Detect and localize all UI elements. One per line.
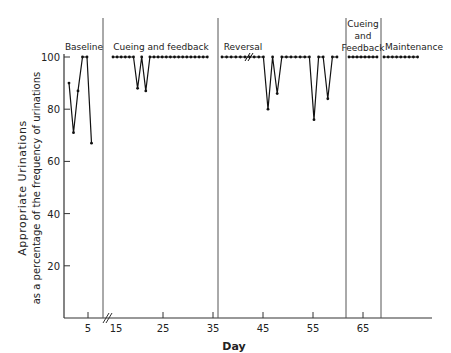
data-point xyxy=(194,56,197,59)
x-tick-label: 65 xyxy=(357,323,370,334)
data-point xyxy=(326,97,329,100)
phase-label: Cueing xyxy=(347,19,378,29)
data-point xyxy=(383,56,386,59)
data-point xyxy=(416,56,419,59)
data-point xyxy=(364,56,367,59)
phase-label: Maintenance xyxy=(385,42,443,52)
data-point xyxy=(81,56,84,59)
data-point xyxy=(128,56,131,59)
y-tick-label: 80 xyxy=(47,104,60,115)
data-point xyxy=(132,56,135,59)
data-point xyxy=(348,56,351,59)
x-tick-label: 25 xyxy=(157,323,170,334)
data-point xyxy=(408,56,411,59)
data-point xyxy=(303,56,306,59)
chart: 204060801005152535455565DayAppropriate U… xyxy=(0,0,451,353)
data-point xyxy=(177,56,180,59)
data-point xyxy=(399,56,402,59)
x-tick-label: 45 xyxy=(257,323,270,334)
data-point xyxy=(173,56,176,59)
data-point xyxy=(225,56,228,59)
data-point xyxy=(299,56,302,59)
data-point xyxy=(90,142,93,145)
data-point xyxy=(368,56,371,59)
data-line xyxy=(222,57,337,120)
y-axis-label: Appropriate Urinations xyxy=(16,120,29,256)
data-point xyxy=(317,56,320,59)
data-point xyxy=(262,56,265,59)
y-tick-label: 40 xyxy=(47,209,60,220)
x-tick-label: 5 xyxy=(85,323,91,334)
data-point xyxy=(144,90,147,93)
x-tick-label: 35 xyxy=(207,323,220,334)
data-point xyxy=(308,56,311,59)
data-point xyxy=(276,92,279,95)
data-point xyxy=(221,56,224,59)
x-tick-label: 55 xyxy=(307,323,320,334)
data-point xyxy=(360,56,363,59)
data-point xyxy=(352,56,355,59)
data-line xyxy=(113,57,207,91)
data-point xyxy=(244,56,247,59)
data-point xyxy=(313,118,316,121)
data-point xyxy=(294,56,297,59)
data-point xyxy=(206,56,209,59)
phase-label: Cueing and feedback xyxy=(113,42,209,52)
data-point xyxy=(116,56,119,59)
phase-label: Feedback xyxy=(342,43,386,53)
y-axis-label-secondary: as a percentage of the frequency of urin… xyxy=(31,72,42,305)
data-point xyxy=(68,82,71,85)
data-point xyxy=(376,56,379,59)
data-point xyxy=(181,56,184,59)
data-point xyxy=(290,56,293,59)
data-point xyxy=(86,56,89,59)
data-point xyxy=(165,56,168,59)
data-point xyxy=(412,56,415,59)
data-point xyxy=(153,56,156,59)
y-tick-label: 100 xyxy=(41,52,60,63)
data-point xyxy=(136,87,139,90)
data-line xyxy=(69,57,92,143)
data-point xyxy=(285,56,288,59)
x-axis-label: Day xyxy=(222,340,245,353)
data-point xyxy=(198,56,201,59)
phase-label: Reversal xyxy=(224,42,263,52)
data-point xyxy=(336,56,339,59)
data-point xyxy=(387,56,390,59)
data-point xyxy=(140,56,143,59)
data-point xyxy=(230,56,233,59)
y-tick-label: 20 xyxy=(47,261,60,272)
data-point xyxy=(395,56,398,59)
data-point xyxy=(124,56,127,59)
data-point xyxy=(267,108,270,111)
data-point xyxy=(404,56,407,59)
data-point xyxy=(257,56,260,59)
data-point xyxy=(112,56,115,59)
data-point xyxy=(157,56,160,59)
data-point xyxy=(280,56,283,59)
y-tick-label: 60 xyxy=(47,156,60,167)
data-point xyxy=(331,56,334,59)
data-point xyxy=(202,56,205,59)
data-point xyxy=(271,56,274,59)
phase-label: Baseline xyxy=(65,42,104,52)
data-point xyxy=(161,56,164,59)
data-point xyxy=(253,56,256,59)
data-point xyxy=(120,56,123,59)
x-tick-label: 15 xyxy=(110,323,123,334)
phase-label: and xyxy=(355,31,372,41)
data-point xyxy=(77,90,80,93)
data-point xyxy=(234,56,237,59)
data-point xyxy=(169,56,172,59)
data-point xyxy=(185,56,188,59)
data-point xyxy=(322,56,325,59)
data-point xyxy=(391,56,394,59)
data-point xyxy=(239,56,242,59)
data-point xyxy=(149,56,152,59)
data-point xyxy=(356,56,359,59)
data-point xyxy=(190,56,193,59)
data-point xyxy=(72,131,75,134)
data-point xyxy=(372,56,375,59)
